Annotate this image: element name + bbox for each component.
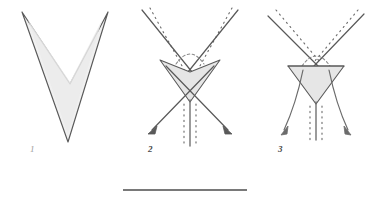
panel-3-arrowhead-left [281,126,288,135]
panel-3-v-arm-left [268,16,318,66]
panel-3-dotted-line-right [314,10,358,62]
panel-1-chevron-inner-tone [28,20,102,134]
figure-container: 1 2 [0,0,375,204]
panel-2-label: 2 [147,144,153,154]
panel-3-dotted-line-left [276,10,320,62]
panel-2-arrowhead-left [148,126,157,134]
panel-3-arrowhead-right [344,126,351,135]
panel-2-arrowhead-right [223,126,232,134]
panel-2-arc-cap [176,54,204,64]
panel-3-v-arm-right [314,14,364,66]
panel-3: 3 [268,10,364,154]
panel-1: 1 [22,12,108,154]
panel-2: 2 [142,8,238,154]
panel-1-label: 1 [30,144,35,154]
panel-3-label: 3 [277,144,283,154]
panel-2-shaded-chevron [160,60,220,102]
figure-canvas: 1 2 [0,0,375,204]
